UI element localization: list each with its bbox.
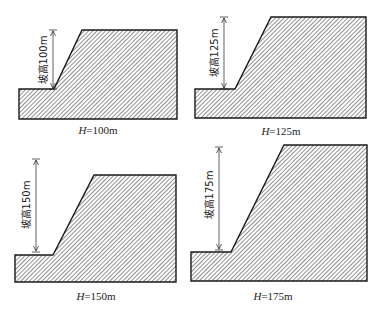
slope-height-label-h150: 坡高150m — [20, 181, 32, 230]
panel-h150: 坡高150m H=150m — [15, 159, 176, 302]
slope-height-label-h125: 坡高125m — [208, 29, 220, 78]
slope-body-h175 — [191, 145, 367, 281]
caption-value: =125m — [269, 125, 301, 137]
panel-caption-h175: H=175m — [252, 290, 293, 302]
slope-height-diagram: 坡高100m H=100m 坡高125m H=125m 坡高150m H=150… — [0, 0, 382, 311]
slope-body-h150 — [15, 175, 176, 282]
caption-value: =100m — [86, 124, 118, 136]
slope-height-label-h100: 坡高100m — [37, 36, 49, 85]
panel-caption-h100: H=100m — [77, 124, 118, 136]
caption-value: =150m — [84, 290, 116, 302]
slope-body-h125 — [195, 17, 366, 118]
panel-caption-h125: H=125m — [260, 125, 301, 137]
caption-value: =175m — [261, 290, 293, 302]
panel-h100: 坡高100m H=100m — [19, 30, 177, 136]
panel-caption-h150: H=150m — [75, 290, 116, 302]
slope-height-label-h175: 坡高175m — [203, 171, 215, 220]
panel-h125: 坡高125m H=125m — [195, 17, 366, 137]
panel-h175: 坡高175m H=175m — [191, 145, 367, 302]
